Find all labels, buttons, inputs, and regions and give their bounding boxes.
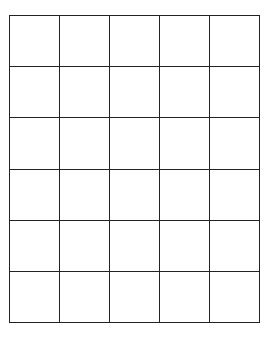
grid-cell <box>10 67 60 118</box>
grid-cell <box>60 170 110 221</box>
grid-cell <box>160 16 210 67</box>
grid-cell <box>210 67 260 118</box>
grid-cell <box>60 16 110 67</box>
grid-cell <box>10 118 60 169</box>
grid-cell <box>10 221 60 272</box>
grid-cell <box>160 67 210 118</box>
grid-cell <box>210 272 260 323</box>
grid-cell <box>10 272 60 323</box>
grid-cell <box>160 118 210 169</box>
grid-cell <box>60 67 110 118</box>
grid-cell <box>210 221 260 272</box>
grid-cell <box>160 170 210 221</box>
grid-cell <box>110 16 160 67</box>
grid-cell <box>60 221 110 272</box>
grid-cell <box>10 16 60 67</box>
grid-cell <box>110 221 160 272</box>
grid-cell <box>10 170 60 221</box>
grid-cell <box>110 170 160 221</box>
grid-cell <box>160 272 210 323</box>
grid-cell <box>60 272 110 323</box>
empty-grid <box>9 15 260 323</box>
grid-cell <box>60 118 110 169</box>
grid-cell <box>110 272 160 323</box>
grid-cell <box>210 16 260 67</box>
grid-cell <box>210 118 260 169</box>
grid-cell <box>210 170 260 221</box>
grid-cell <box>110 118 160 169</box>
grid-cell <box>160 221 210 272</box>
grid-cell <box>110 67 160 118</box>
